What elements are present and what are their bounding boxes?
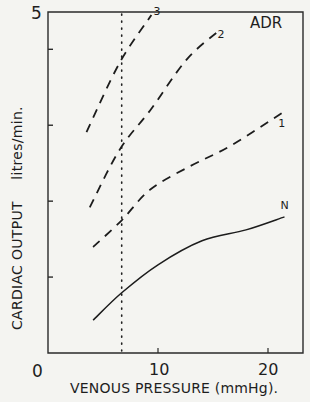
y-axis-units: litres/min. — [9, 106, 25, 180]
plot-frame — [48, 12, 303, 353]
y-axis-ticks — [48, 49, 53, 277]
x-tick-label-20: 20 — [258, 360, 278, 379]
series-line-2 — [90, 30, 220, 207]
line-chart: N123 — [0, 0, 310, 402]
series-label-1: 1 — [278, 117, 285, 130]
series-label-3: 3 — [153, 5, 160, 18]
y-axis-title-text: CARDIAC OUTPUT — [9, 201, 25, 330]
x-axis-title: VENOUS PRESSURE (mmHg). — [70, 380, 278, 396]
y-axis-title: CARDIAC OUTPUT litres/min. — [9, 106, 25, 330]
x-tick-label-10: 10 — [149, 360, 169, 379]
series-label-2: 2 — [218, 28, 225, 41]
series-line-3 — [87, 15, 152, 132]
series-label-N: N — [281, 199, 289, 212]
origin-label: 0 — [32, 361, 43, 381]
series-group — [87, 15, 285, 320]
series-labels: N123 — [153, 5, 288, 212]
y-max-label: 5 — [31, 3, 42, 23]
panel-label: ADR — [250, 14, 282, 32]
x-axis-ticks — [158, 348, 268, 353]
axis-frame — [48, 12, 303, 353]
